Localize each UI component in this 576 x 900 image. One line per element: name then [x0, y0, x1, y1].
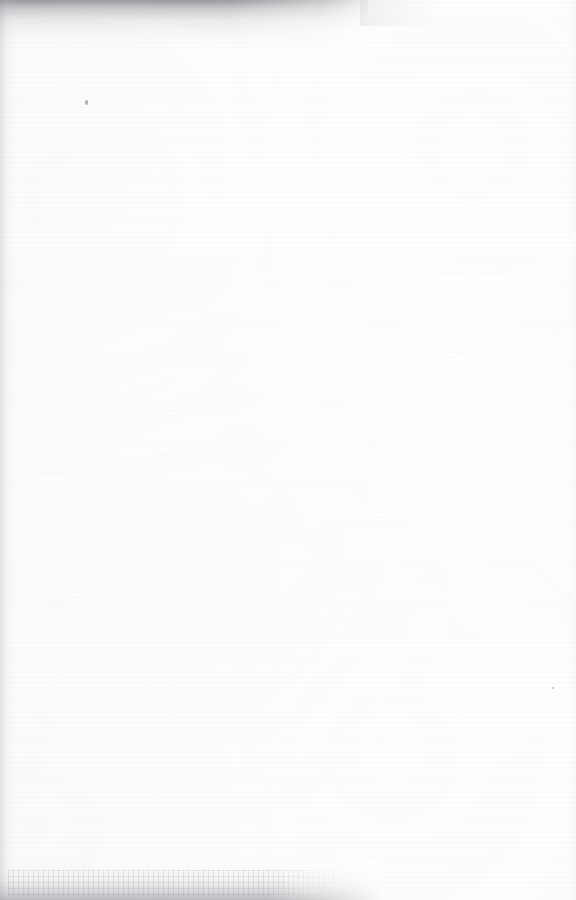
bleed-through-line	[250, 266, 550, 285]
scanner-edge-shadow-right	[566, 0, 576, 900]
bleed-through-line	[250, 342, 550, 361]
speck-upper-left	[85, 100, 88, 105]
bleed-through-line	[62, 170, 548, 191]
scanner-edge-shadow-bottom-fade	[0, 860, 380, 900]
bleed-through-paragraph-lower	[250, 266, 550, 361]
bleed-through-line	[62, 88, 548, 109]
scanner-edge-shadow-top-fade	[0, 0, 368, 52]
scanner-edge-shadow-left	[0, 0, 16, 900]
bleed-through-line	[62, 211, 548, 232]
bleed-through-line	[62, 129, 548, 150]
speck-lower-right	[552, 687, 554, 689]
bleed-through-paragraph-upper	[62, 88, 548, 232]
bleed-through-line	[62, 109, 548, 130]
bleed-through-line	[250, 285, 550, 304]
bleed-through-line	[250, 323, 550, 342]
bleed-through-line	[250, 304, 550, 323]
bleed-through-line	[62, 191, 548, 212]
bleed-through-line	[62, 150, 548, 171]
scanned-page	[0, 0, 576, 900]
scanner-edge-shadow-top-tail	[360, 0, 440, 26]
